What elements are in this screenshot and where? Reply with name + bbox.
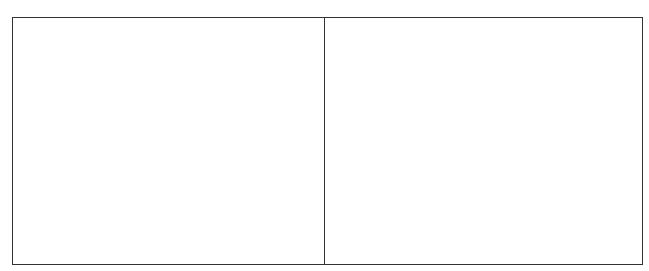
right-panel: [325, 18, 642, 264]
clipped-caption: [0, 0, 649, 5]
left-panel: [13, 18, 325, 264]
two-panel-frame: [12, 17, 643, 265]
